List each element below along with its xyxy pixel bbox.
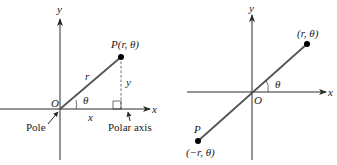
vertical-leg-label: y bbox=[125, 76, 131, 88]
origin-label: O bbox=[254, 94, 262, 106]
x-axis-label: x bbox=[327, 86, 333, 98]
polar-coordinates-figure: y x P(r, θ) O θ r y x Pole Polar axis y … bbox=[0, 0, 337, 165]
point-r-theta bbox=[304, 41, 310, 47]
origin-label: O bbox=[51, 97, 59, 109]
angle-arc bbox=[76, 100, 77, 109]
x-axis-label: x bbox=[151, 103, 157, 115]
point-r-theta-label: (r, θ) bbox=[297, 27, 319, 40]
right-angle-marker bbox=[113, 101, 121, 109]
point-p-negative bbox=[195, 138, 201, 144]
r-label: r bbox=[85, 70, 90, 82]
p-label: P bbox=[193, 123, 201, 135]
polar-axis-arrow bbox=[128, 112, 130, 121]
theta-label: θ bbox=[83, 94, 89, 106]
neg-point-label: (−r, θ) bbox=[186, 146, 215, 159]
y-axis-label: y bbox=[56, 3, 62, 15]
theta-label: θ bbox=[275, 78, 281, 90]
point-p bbox=[118, 54, 124, 60]
y-axis-label: y bbox=[248, 2, 254, 14]
horizontal-leg-label: x bbox=[87, 111, 93, 123]
right-diagram: y x (r, θ) O θ P (−r, θ) bbox=[186, 2, 333, 160]
left-diagram: y x P(r, θ) O θ r y x Pole Polar axis bbox=[0, 3, 157, 160]
radius-ray bbox=[60, 57, 121, 109]
pole-arrow bbox=[48, 112, 58, 124]
angle-arc bbox=[266, 80, 268, 92]
pole-label: Pole bbox=[26, 121, 46, 133]
point-p-label: P(r, θ) bbox=[110, 38, 139, 51]
polar-axis-label: Polar axis bbox=[108, 121, 152, 133]
